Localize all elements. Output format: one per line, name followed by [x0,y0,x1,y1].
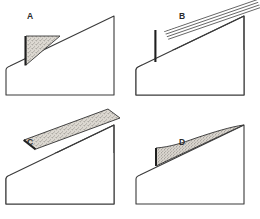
panel-d: D [136,125,244,204]
panel-c: C [6,109,120,204]
panel-d-label: D [179,137,185,147]
panel-a-base-ramp [6,16,114,95]
panel-c-base-fill-lower [6,153,114,204]
panel-d-base-ramp [136,125,244,204]
panel-a-label: A [27,11,33,21]
four-panel-diagram: A B [0,0,260,219]
panel-b-label: B [179,11,185,21]
panel-b: B [136,0,260,95]
figure-container: A B [0,0,260,219]
panel-b-base-fill-lower [136,50,244,95]
panel-c-stippled-band [24,109,120,158]
panel-a: A [6,11,114,95]
panel-c-label: C [27,137,33,147]
